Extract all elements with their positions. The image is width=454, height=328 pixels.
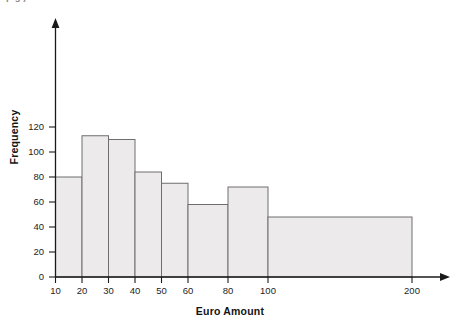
x-axis-ticks [56,277,413,283]
bar-10-20 [56,177,83,277]
xtick-label-40: 40 [122,285,148,296]
histogram-chart: 0 20 40 60 80 100 120 10 20 30 40 50 60 … [0,0,454,328]
histogram-plot-svg [0,0,454,328]
bar-30-40 [109,140,136,278]
ytick-label-60: 60 [18,196,44,207]
x-axis-title: Euro Amount [150,305,310,317]
xtick-label-50: 50 [149,285,175,296]
xtick-label-60: 60 [175,285,201,296]
bar-80-100 [228,187,268,277]
xtick-label-80: 80 [215,285,241,296]
ytick-label-20: 20 [18,246,44,257]
ytick-label-100: 100 [18,146,44,157]
xtick-label-20: 20 [69,285,95,296]
ytick-label-40: 40 [18,221,44,232]
bar-40-50 [135,172,162,277]
bar-20-30 [82,136,109,277]
y-axis-title: Frequency [8,97,20,177]
xtick-label-100: 100 [255,285,281,296]
xtick-label-30: 30 [96,285,122,296]
xtick-label-10: 10 [43,285,69,296]
histogram-bars [56,136,413,277]
bar-100-200 [268,217,412,277]
ytick-label-80: 80 [18,171,44,182]
bar-50-60 [162,183,189,277]
y-axis-ticks [49,127,56,277]
ytick-label-120: 120 [18,121,44,132]
ytick-label-0: 0 [18,271,44,282]
xtick-label-200: 200 [399,285,425,296]
bar-60-80 [188,205,228,278]
